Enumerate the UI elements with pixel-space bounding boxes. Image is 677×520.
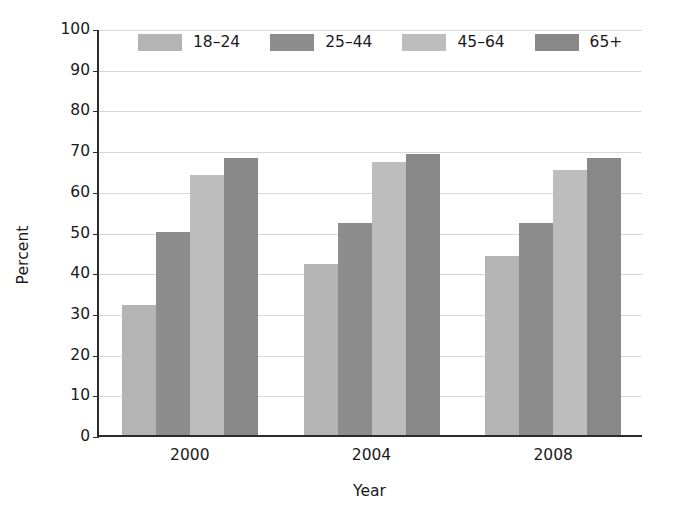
bar-group [122, 30, 258, 435]
legend-item: 45–64 [402, 33, 504, 51]
plot-area: 1009080706050403020100 200020042008 [97, 30, 642, 437]
x-tick-label: 2004 [302, 446, 442, 464]
y-tick-label: 30 [30, 307, 90, 323]
x-tick-label: 2008 [483, 446, 623, 464]
bar [338, 223, 372, 435]
bars-layer [99, 30, 642, 435]
y-tick-label: 90 [30, 63, 90, 79]
y-tick-mark [93, 437, 99, 438]
bar [372, 162, 406, 435]
y-tick-label: 10 [30, 389, 90, 405]
bar-group [304, 30, 440, 435]
y-tick-label: 100 [30, 22, 90, 38]
y-tick-label: 60 [30, 185, 90, 201]
legend-swatch-icon [535, 34, 579, 51]
legend-label: 18–24 [193, 33, 240, 51]
legend-swatch-icon [138, 34, 182, 51]
legend-swatch-icon [402, 34, 446, 51]
legend-label: 65+ [590, 33, 623, 51]
legend: 18–2425–4445–6465+ [138, 33, 622, 51]
bar [406, 154, 440, 435]
legend-label: 25–44 [325, 33, 372, 51]
bar [122, 305, 156, 435]
bar [156, 232, 190, 436]
legend-swatch-icon [270, 34, 314, 51]
bar [190, 175, 224, 435]
y-tick-label: 0 [30, 429, 90, 445]
bar [224, 158, 258, 435]
y-tick-label: 50 [30, 226, 90, 242]
legend-label: 45–64 [457, 33, 504, 51]
y-tick-label: 40 [30, 266, 90, 282]
y-tick-label: 70 [30, 144, 90, 160]
x-tick-label: 2000 [120, 446, 260, 464]
legend-item: 18–24 [138, 33, 240, 51]
bar [519, 223, 553, 435]
bar-group [485, 30, 621, 435]
bar [553, 170, 587, 435]
legend-item: 25–44 [270, 33, 372, 51]
legend-item: 65+ [535, 33, 623, 51]
y-tick-label: 80 [30, 104, 90, 120]
bar [485, 256, 519, 435]
y-tick-label: 20 [30, 348, 90, 364]
bar [304, 264, 338, 435]
bar-chart: Percent 1009080706050403020100 200020042… [0, 0, 677, 520]
x-axis-title: Year [97, 482, 642, 500]
bar [587, 158, 621, 435]
